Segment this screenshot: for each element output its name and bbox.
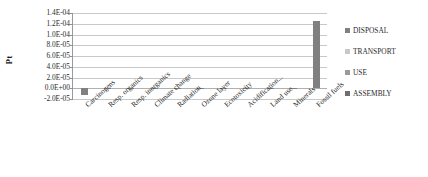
y-axis-tick <box>70 35 73 36</box>
legend-item[interactable]: USE <box>345 68 367 77</box>
y-axis-tick <box>70 78 73 79</box>
legend-swatch-icon <box>345 28 350 33</box>
legend-item[interactable]: DISPOSAL <box>345 26 388 35</box>
y-axis-tick-label: 1.2E-04 <box>18 20 70 27</box>
gridline <box>73 56 327 57</box>
legend-item[interactable]: ASSEMBLY <box>345 89 392 98</box>
y-axis-tick-label: 8.0E-05 <box>18 41 70 48</box>
bar <box>81 88 88 94</box>
y-axis-tick <box>70 24 73 25</box>
y-axis-tick-labels: 1.4E-041.2E-041.0E-048.0E-056.0E-054.0E-… <box>16 13 70 99</box>
y-axis-tick-label: 6.0E-05 <box>18 52 70 59</box>
y-axis-tick-label: 0.0E+00 <box>18 84 70 91</box>
y-axis-tick <box>70 45 73 46</box>
x-axis-tick-labels: CarcinogensResp. organicsResp. inorganic… <box>60 100 360 170</box>
legend-item-label: TRANSPORT <box>353 48 396 55</box>
y-axis-tick-label: 2.0E-05 <box>18 74 70 81</box>
legend-swatch-icon <box>345 49 350 54</box>
y-axis-tick-label: 1.0E-04 <box>18 31 70 38</box>
y-axis-tick <box>70 88 73 89</box>
gridline <box>73 67 327 68</box>
y-axis-title: Pt <box>2 40 16 80</box>
legend-item-label: ASSEMBLY <box>353 90 392 97</box>
y-axis-tick-label: 1.4E-04 <box>18 9 70 16</box>
chart-legend: DISPOSALTRANSPORTUSEASSEMBLY <box>345 26 427 102</box>
bar <box>313 21 320 88</box>
legend-swatch-icon <box>345 91 350 96</box>
legend-item-label: USE <box>353 69 367 76</box>
legend-item-label: DISPOSAL <box>353 27 388 34</box>
gridline <box>73 13 327 14</box>
y-axis-tick <box>70 56 73 57</box>
gridline <box>73 24 327 25</box>
legend-item[interactable]: TRANSPORT <box>345 47 396 56</box>
y-axis-tick-label: 4.0E-05 <box>18 63 70 70</box>
y-axis-tick <box>70 13 73 14</box>
gridline <box>73 35 327 36</box>
gridline <box>73 45 327 46</box>
bar-chart: Pt 1.4E-041.2E-041.0E-048.0E-056.0E-054.… <box>0 0 428 177</box>
y-axis-title-label: Pt <box>4 56 14 65</box>
y-axis-tick <box>70 67 73 68</box>
legend-swatch-icon <box>345 70 350 75</box>
